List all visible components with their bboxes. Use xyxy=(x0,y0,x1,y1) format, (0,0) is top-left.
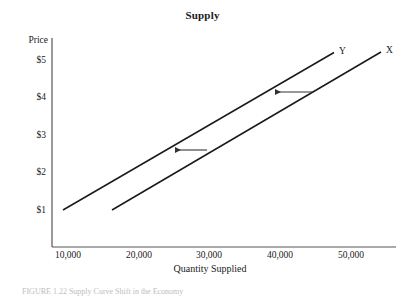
supply-curve-figure: Supply Price $5 $4 $3 $2 $1 10,000 20,00… xyxy=(0,0,405,297)
supply-curve-y xyxy=(63,53,334,211)
figure-caption: FIGURE 1.22 Supply Curve Shift in the Ec… xyxy=(22,287,392,296)
plot-canvas xyxy=(0,0,405,297)
supply-curve-x xyxy=(112,52,381,210)
